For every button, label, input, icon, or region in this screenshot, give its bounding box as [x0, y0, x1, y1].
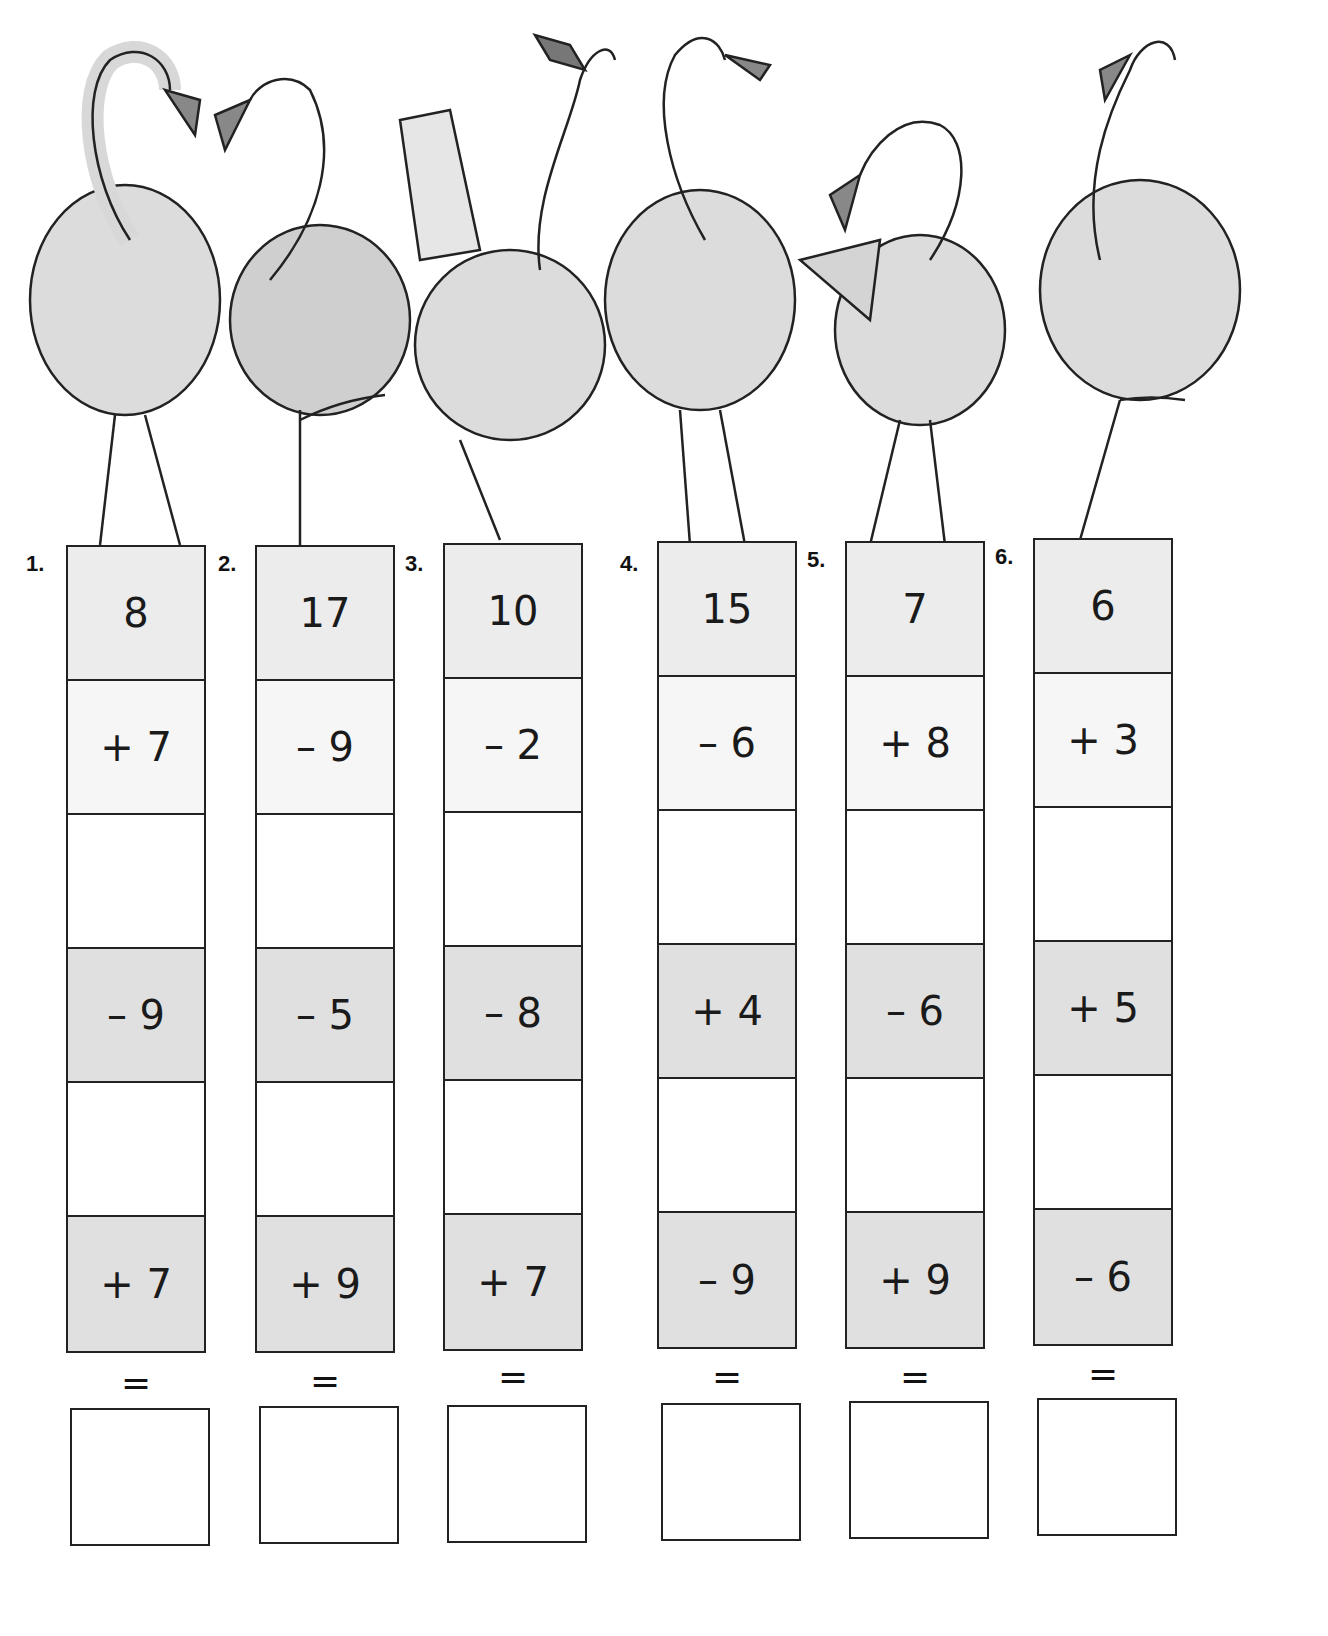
operation-cell: + 7: [68, 1217, 204, 1351]
intermediate-answer-cell[interactable]: [68, 1083, 204, 1217]
flamingo-icon: [215, 79, 410, 545]
flamingo-illustration: [0, 0, 1328, 560]
operation-cell: + 7: [445, 1215, 581, 1349]
equals-sign: =: [255, 1363, 395, 1399]
final-answer-box[interactable]: [1037, 1398, 1177, 1536]
number-chain: 8 + 7 – 9 + 7: [66, 545, 206, 1353]
operation-cell: – 9: [257, 681, 393, 815]
operation-cell: + 3: [1035, 674, 1171, 808]
problem-number: 5.: [807, 547, 825, 573]
problem-number: 6.: [995, 544, 1013, 570]
start-value: 10: [445, 545, 581, 679]
start-value: 17: [257, 547, 393, 681]
operation-cell: + 9: [847, 1213, 983, 1347]
equals-sign: =: [845, 1359, 985, 1395]
start-value: 15: [659, 543, 795, 677]
flamingo-icon: [605, 38, 795, 545]
intermediate-answer-cell[interactable]: [1035, 808, 1171, 942]
intermediate-answer-cell[interactable]: [257, 1083, 393, 1217]
final-answer-box[interactable]: [259, 1406, 399, 1544]
flamingo-icon: [400, 35, 615, 540]
operation-cell: + 8: [847, 677, 983, 811]
operation-cell: + 7: [68, 681, 204, 815]
number-chain: 15 – 6 + 4 – 9: [657, 541, 797, 1349]
operation-cell: + 4: [659, 945, 795, 1079]
operation-cell: – 5: [257, 949, 393, 1083]
final-answer-box[interactable]: [447, 1405, 587, 1543]
number-chain: 10 – 2 – 8 + 7: [443, 543, 583, 1351]
operation-cell: – 9: [68, 949, 204, 1083]
start-value: 6: [1035, 540, 1171, 674]
number-chain: 17 – 9 – 5 + 9: [255, 545, 395, 1353]
final-answer-box[interactable]: [70, 1408, 210, 1546]
intermediate-answer-cell[interactable]: [659, 1079, 795, 1213]
operation-cell: – 2: [445, 679, 581, 813]
intermediate-answer-cell[interactable]: [445, 1081, 581, 1215]
equals-sign: =: [66, 1365, 206, 1401]
operation-cell: – 6: [659, 677, 795, 811]
operation-cell: – 9: [659, 1213, 795, 1347]
problem-number: 1.: [26, 551, 44, 577]
final-answer-box[interactable]: [849, 1401, 989, 1539]
operation-cell: – 6: [847, 945, 983, 1079]
equals-sign: =: [657, 1359, 797, 1395]
start-value: 8: [68, 547, 204, 681]
problem-number: 2.: [218, 551, 236, 577]
number-chain: 7 + 8 – 6 + 9: [845, 541, 985, 1349]
flamingo-icon: [30, 52, 220, 545]
final-answer-box[interactable]: [661, 1403, 801, 1541]
intermediate-answer-cell[interactable]: [1035, 1076, 1171, 1210]
number-chain: 6 + 3 + 5 – 6: [1033, 538, 1173, 1346]
intermediate-answer-cell[interactable]: [659, 811, 795, 945]
flamingo-icon: [800, 122, 1005, 545]
equals-sign: =: [443, 1359, 583, 1395]
operation-cell: – 6: [1035, 1210, 1171, 1344]
start-value: 7: [847, 543, 983, 677]
intermediate-answer-cell[interactable]: [257, 815, 393, 949]
flamingo-icon: [1040, 42, 1240, 540]
intermediate-answer-cell[interactable]: [445, 813, 581, 947]
operation-cell: + 9: [257, 1217, 393, 1351]
operation-cell: – 8: [445, 947, 581, 1081]
equals-sign: =: [1033, 1356, 1173, 1392]
problem-number: 3.: [405, 551, 423, 577]
problem-number: 4.: [620, 551, 638, 577]
operation-cell: + 5: [1035, 942, 1171, 1076]
intermediate-answer-cell[interactable]: [68, 815, 204, 949]
intermediate-answer-cell[interactable]: [847, 811, 983, 945]
intermediate-answer-cell[interactable]: [847, 1079, 983, 1213]
